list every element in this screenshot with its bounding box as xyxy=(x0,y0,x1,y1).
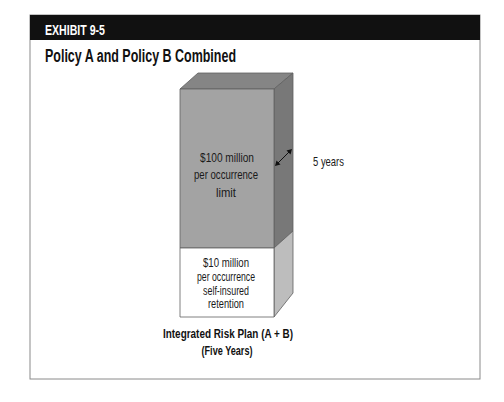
limit-label-line-3: limit xyxy=(216,185,236,200)
retention-label-line-1: $10 million xyxy=(203,256,249,270)
depth-label: 5 years xyxy=(313,154,344,169)
limit-label-line-2: per occurrence xyxy=(194,167,258,182)
exhibit-figure: EXHIBIT 9-5 Policy A and Policy B Combin… xyxy=(0,0,504,402)
block-side-upper xyxy=(274,73,293,248)
exhibit-label: EXHIBIT 9-5 xyxy=(45,22,105,38)
caption-line-1: Integrated Risk Plan (A + B) xyxy=(163,326,293,341)
retention-label-line-2: per occurrence xyxy=(197,270,255,284)
exhibit-title: Policy A and Policy B Combined xyxy=(45,46,236,66)
block-top-face xyxy=(180,73,293,89)
caption-line-2: (Five Years) xyxy=(202,343,253,358)
retention-label-line-3: self-insured xyxy=(203,284,249,298)
retention-label-line-4: retention xyxy=(208,297,244,311)
limit-label-line-1: $100 million xyxy=(200,150,254,165)
